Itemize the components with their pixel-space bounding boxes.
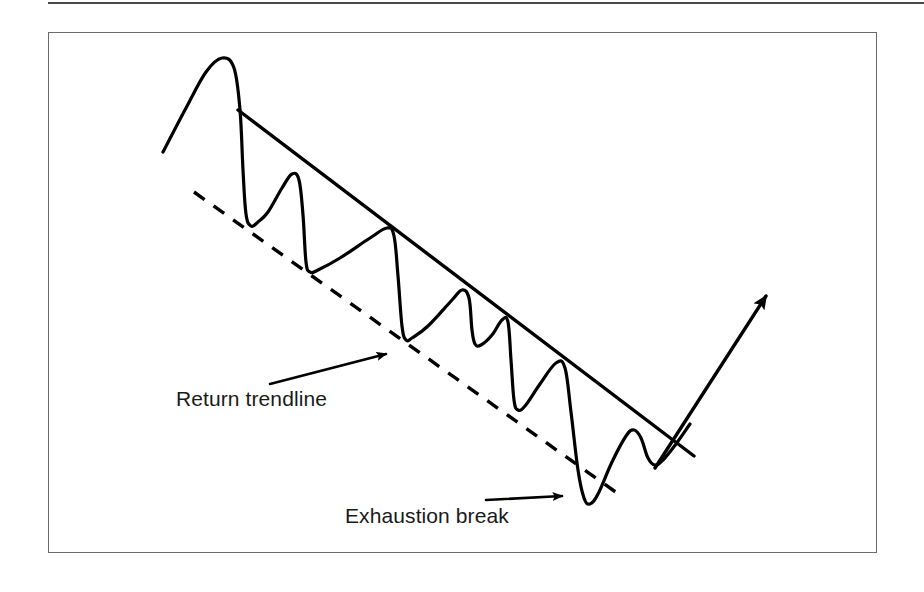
figure-page: Return trendline Exhaustion break [0,0,924,592]
exhaustion-break-label: Exhaustion break [345,504,509,528]
figure-frame-border [48,32,877,553]
page-top-rule [48,2,924,4]
return-trendline-label: Return trendline [176,387,327,411]
